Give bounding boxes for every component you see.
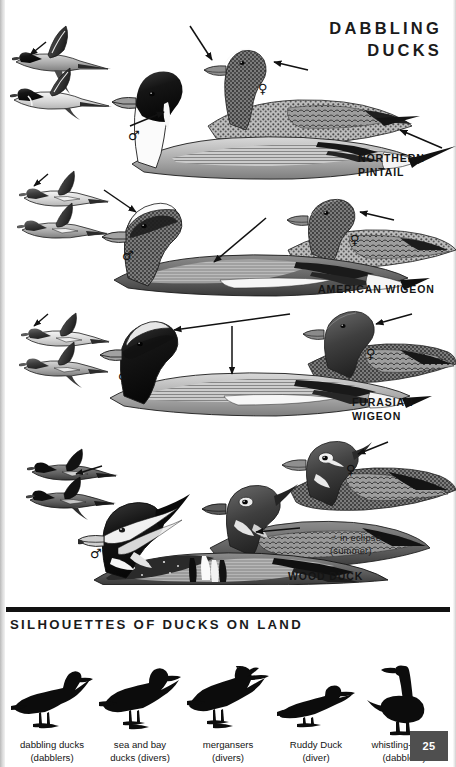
eurwigeon-female: [303, 311, 456, 382]
pintail-flight-lower: [10, 68, 112, 120]
pointer-arrow: [30, 42, 46, 55]
silhouette-item-ruddy-duck: Ruddy Duck (diver): [272, 664, 360, 764]
silhouette-caption: sea and bay ducks (divers): [110, 739, 170, 764]
woodduck-female: [282, 441, 456, 510]
male-symbol-pintail: ♂: [128, 128, 140, 143]
female-symbol-amwigeon: ♀: [350, 232, 360, 247]
whistling-duck-silhouette-icon: [363, 664, 445, 736]
silhouette-caption: Ruddy Duck (diver): [290, 739, 342, 764]
male-symbol-amwigeon: ♂: [122, 248, 134, 263]
species-label-wood-duck: WOOD DUCK: [288, 570, 363, 584]
eclipse-note: ♂ in eclipse (summer): [330, 532, 381, 557]
page-number: 25: [410, 731, 448, 761]
silhouettes-section-title: SILHOUETTES OF DUCKS ON LAND: [10, 617, 303, 632]
section-divider: [6, 607, 450, 612]
pointer-arrow: [190, 26, 212, 60]
amwigeon-flight-lower: [17, 203, 108, 238]
plate-american-wigeon-flight: [14, 168, 112, 254]
eurwigeon-flight-upper: [21, 313, 110, 346]
species-label-eurasian-wigeon: FURASIAN WIGEON: [352, 396, 413, 423]
pointer-arrow: [34, 174, 48, 186]
male-symbol-woodduck: ♂: [90, 546, 102, 561]
pointer-arrow: [376, 314, 412, 324]
silhouette-caption: mergansers (divers): [203, 739, 254, 764]
field-guide-page: DABBLING DUCKS: [0, 0, 456, 767]
merganser-silhouette-icon: [187, 664, 269, 736]
ruddy-duck-silhouette-icon: [275, 664, 357, 736]
pointer-arrow: [274, 62, 308, 70]
plate-wood-duck-swimming: ♀: [78, 440, 456, 585]
female-symbol-eurwigeon: ♀: [366, 346, 376, 361]
female-symbol-woodduck: ♀: [346, 462, 356, 477]
male-symbol-eurwigeon: ♂: [118, 368, 130, 383]
pointer-arrow: [104, 190, 136, 212]
amwigeon-flight-upper: [19, 171, 110, 206]
silhouette-caption: dabbling ducks (dabblers): [20, 739, 84, 764]
pointer-arrow: [360, 212, 394, 220]
silhouette-item-mergansers: mergansers (divers): [184, 664, 272, 764]
silhouette-item-dabbling-ducks: dabbling ducks (dabblers): [8, 664, 96, 764]
silhouette-item-sea-and-bay-ducks: sea and bay ducks (divers): [96, 664, 184, 764]
plate-eurasian-wigeon-flight: [18, 310, 112, 390]
pointer-arrow: [34, 314, 48, 326]
eurwigeon-flight-lower: [19, 342, 108, 388]
species-label-northern-pintail: NORTHERN PINTAIL: [358, 152, 425, 179]
silhouettes-row: dabbling ducks (dabblers) sea and bay du…: [4, 636, 452, 764]
female-symbol-pintail: ♀: [258, 81, 268, 96]
dabbling-duck-silhouette-icon: [11, 664, 93, 736]
plate-northern-pintail-flight: [8, 22, 113, 134]
pointer-arrow: [358, 442, 388, 454]
sea-bay-duck-silhouette-icon: [99, 664, 181, 736]
species-label-american-wigeon: AMERICAN WIGEON: [318, 283, 435, 297]
